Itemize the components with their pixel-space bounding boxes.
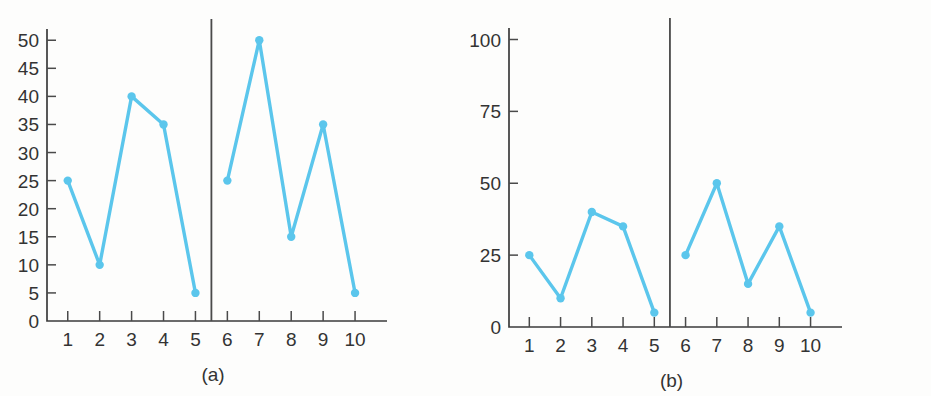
x-tick-label: 6 — [680, 335, 691, 356]
y-tick-label: 40 — [18, 86, 39, 107]
series-line-segment-6-10 — [686, 183, 811, 312]
data-point — [744, 280, 752, 288]
x-tick-label: 7 — [712, 335, 723, 356]
y-tick-label: 0 — [490, 317, 501, 338]
y-tick-label: 15 — [18, 227, 39, 248]
data-point — [64, 176, 72, 184]
axis-lines — [47, 29, 387, 321]
data-point — [223, 176, 231, 184]
data-point — [806, 308, 814, 316]
data-point — [650, 308, 658, 316]
y-tick-label: 50 — [480, 173, 501, 194]
chart-b-canvas: 025507510012345678910(b) — [466, 0, 931, 396]
x-tick-label: 3 — [126, 329, 137, 350]
x-tick-label: 8 — [743, 335, 754, 356]
chart-b-root: 025507510012345678910(b) — [469, 18, 842, 391]
data-point — [319, 120, 327, 128]
x-tick-label: 3 — [587, 335, 598, 356]
x-tick-label: 6 — [222, 329, 233, 350]
y-tick-label: 10 — [18, 255, 39, 276]
data-point — [775, 222, 783, 230]
x-tick-label: 7 — [254, 329, 265, 350]
data-point — [556, 294, 564, 302]
x-tick-label: 10 — [800, 335, 821, 356]
x-tick-label: 10 — [344, 329, 365, 350]
data-point — [95, 261, 103, 269]
y-tick-label: 50 — [18, 30, 39, 51]
axis-lines — [509, 28, 842, 327]
x-tick-label: 2 — [555, 335, 566, 356]
y-tick-label: 45 — [18, 58, 39, 79]
x-tick-label: 5 — [649, 335, 660, 356]
figure-two-line-charts: 0510152025303540455012345678910(a) 02550… — [0, 0, 931, 396]
x-tick-label: 9 — [318, 329, 329, 350]
data-point — [159, 120, 167, 128]
panel-caption-a: (a) — [201, 364, 224, 385]
y-tick-label: 35 — [18, 114, 39, 135]
x-tick-label: 9 — [774, 335, 785, 356]
data-point — [619, 222, 627, 230]
panel-caption-b: (b) — [660, 370, 683, 391]
y-tick-label: 25 — [18, 171, 39, 192]
y-tick-label: 100 — [469, 30, 501, 51]
series-line-segment-1-5 — [68, 96, 196, 293]
data-point — [588, 208, 596, 216]
x-tick-label: 5 — [190, 329, 201, 350]
data-point — [351, 289, 359, 297]
x-tick-label: 1 — [524, 335, 535, 356]
x-tick-label: 2 — [94, 329, 105, 350]
chart-a-canvas: 0510152025303540455012345678910(a) — [0, 0, 466, 396]
y-tick-label: 5 — [28, 283, 39, 304]
data-point — [287, 233, 295, 241]
x-tick-label: 4 — [618, 335, 629, 356]
data-point — [127, 92, 135, 100]
y-tick-label: 20 — [18, 199, 39, 220]
data-point — [255, 36, 263, 44]
data-point — [713, 179, 721, 187]
y-tick-label: 30 — [18, 143, 39, 164]
data-point — [681, 251, 689, 259]
series-line-segment-1-5 — [529, 212, 654, 313]
chart-a-root: 0510152025303540455012345678910(a) — [18, 19, 387, 385]
series-line-segment-6-10 — [227, 40, 355, 293]
data-point — [191, 289, 199, 297]
x-tick-label: 4 — [158, 329, 169, 350]
data-point — [525, 251, 533, 259]
y-tick-label: 0 — [28, 311, 39, 332]
y-tick-label: 75 — [480, 101, 501, 122]
y-tick-label: 25 — [480, 245, 501, 266]
chart-panel-b: 025507510012345678910(b) — [466, 0, 931, 396]
x-tick-label: 8 — [286, 329, 297, 350]
chart-panel-a: 0510152025303540455012345678910(a) — [0, 0, 466, 396]
x-tick-label: 1 — [62, 329, 73, 350]
